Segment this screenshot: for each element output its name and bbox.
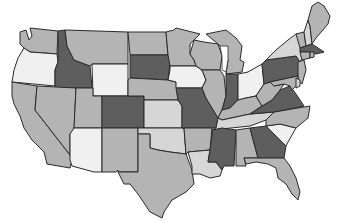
- state-MT[interactable]: Montana: [65, 30, 128, 66]
- state-WY[interactable]: Wyoming: [92, 64, 128, 96]
- state-ME[interactable]: Maine: [308, 2, 330, 44]
- state-AZ[interactable]: Arizona: [70, 128, 102, 172]
- state-SD[interactable]: South Dakota: [130, 55, 170, 80]
- state-OR[interactable]: Oregon: [12, 48, 58, 86]
- state-NM[interactable]: New Mexico: [102, 128, 138, 172]
- state-DE[interactable]: Delaware: [296, 78, 300, 88]
- us-states-map: Washington Oregon California Idaho Nevad…: [0, 0, 338, 223]
- state-KS[interactable]: Kansas: [144, 100, 182, 128]
- state-CT[interactable]: Connecticut: [300, 52, 310, 60]
- state-CO[interactable]: Colorado: [102, 96, 144, 128]
- state-RI[interactable]: Rhode Island: [310, 52, 314, 58]
- state-ND[interactable]: North Dakota: [128, 32, 168, 55]
- state-FL[interactable]: Florida: [244, 158, 300, 200]
